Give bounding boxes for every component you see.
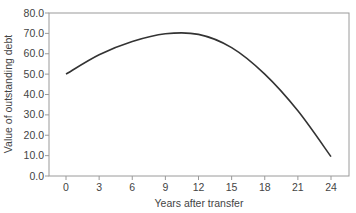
debt-value-line	[66, 33, 331, 157]
x-tick-label: 15	[226, 181, 238, 193]
x-axis: 03691215182124	[63, 176, 337, 193]
y-tick-label: 30.0	[24, 108, 45, 120]
y-tick-label: 70.0	[24, 27, 45, 39]
plot-frame	[49, 13, 349, 176]
line-chart: 0.010.020.030.040.050.060.070.080.0 0369…	[0, 0, 356, 213]
x-tick-label: 21	[292, 181, 304, 193]
x-tick-label: 3	[96, 181, 102, 193]
y-tick-label: 10.0	[24, 149, 45, 161]
x-tick-label: 24	[325, 181, 337, 193]
x-tick-label: 18	[259, 181, 271, 193]
y-axis: 0.010.020.030.040.050.060.070.080.0	[24, 7, 49, 182]
x-axis-title: Years after transfer	[155, 197, 244, 209]
y-axis-title: Value of outstanding debt	[2, 35, 14, 153]
y-tick-label: 40.0	[24, 88, 45, 100]
y-tick-label: 50.0	[24, 68, 45, 80]
plot-area	[49, 13, 349, 176]
x-tick-label: 6	[129, 181, 135, 193]
y-tick-label: 60.0	[24, 47, 45, 59]
y-tick-label: 20.0	[24, 129, 45, 141]
x-tick-label: 12	[193, 181, 205, 193]
y-tick-label: 80.0	[24, 7, 45, 19]
x-tick-label: 9	[162, 181, 168, 193]
y-tick-label: 0.0	[29, 170, 44, 182]
x-tick-label: 0	[63, 181, 69, 193]
